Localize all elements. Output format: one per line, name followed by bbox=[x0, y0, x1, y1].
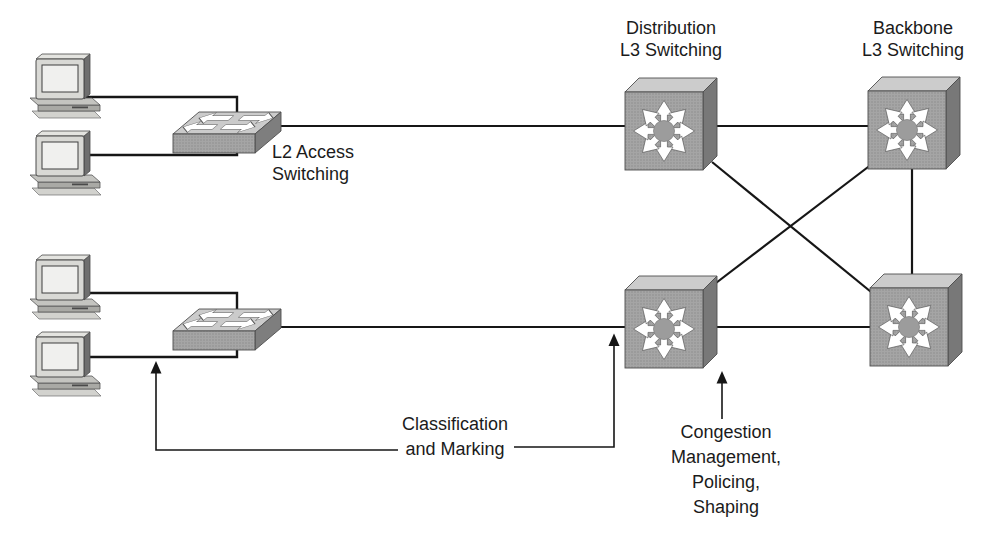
label-line: Classification bbox=[380, 412, 530, 437]
label-line: L2 Access bbox=[272, 141, 392, 163]
backbone-l3-switching-label: Backbone L3 Switching bbox=[838, 17, 988, 61]
classification-callout-right-arrowhead-icon bbox=[609, 334, 620, 347]
classification-callout-left-arrowhead-icon bbox=[151, 361, 162, 374]
congestion-callout-arrowhead-icon bbox=[717, 371, 728, 384]
label-line: L3 Switching bbox=[596, 39, 746, 61]
link-dist1-backbone2 bbox=[712, 162, 876, 296]
backbone-l3-switch-icon-top bbox=[868, 77, 960, 169]
l2-access-switching-label: L2 Access Switching bbox=[272, 141, 392, 185]
label-line: Backbone bbox=[838, 17, 988, 39]
label-line: Policing, bbox=[651, 470, 801, 495]
classification-and-marking-label: Classification and Marking bbox=[380, 412, 530, 462]
pc-icon-1 bbox=[30, 54, 101, 118]
classification-callout-left-line bbox=[156, 373, 398, 450]
pc-icon-3 bbox=[30, 255, 101, 319]
label-line: and Marking bbox=[380, 437, 530, 462]
label-line: Shaping bbox=[651, 495, 801, 520]
congestion-management-label: Congestion Management, Policing, Shaping bbox=[651, 420, 801, 520]
congestion-callout bbox=[717, 371, 728, 419]
label-line: Distribution bbox=[596, 17, 746, 39]
diagram-canvas: Distribution L3 Switching Backbone L3 Sw… bbox=[0, 0, 992, 540]
distribution-l3-switch-icon-bottom bbox=[625, 276, 717, 368]
l2-access-switch-icon-top bbox=[173, 112, 281, 153]
l2-access-switch-icon-bottom bbox=[173, 309, 281, 350]
distribution-l3-switch-icon-top bbox=[625, 78, 717, 170]
pc-icon-2 bbox=[30, 131, 101, 195]
label-line: Congestion bbox=[651, 420, 801, 445]
pc-icon-4 bbox=[30, 332, 101, 396]
backbone-l3-switch-icon-bottom bbox=[870, 274, 962, 366]
label-line: Management, bbox=[651, 445, 801, 470]
distribution-l3-switching-label: Distribution L3 Switching bbox=[596, 17, 746, 61]
label-line: L3 Switching bbox=[838, 39, 988, 61]
label-line: Switching bbox=[272, 163, 392, 185]
